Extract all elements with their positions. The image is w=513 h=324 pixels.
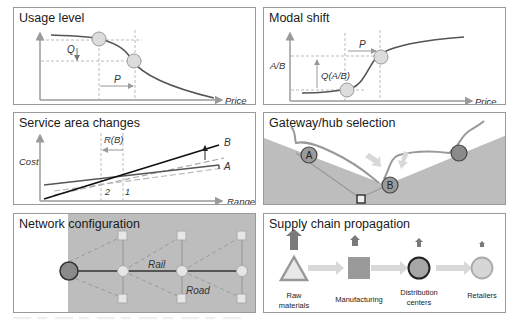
q-label: Q(A/B) — [321, 70, 350, 81]
stage-label: Manufacturing — [335, 295, 383, 304]
rail-node — [118, 266, 129, 277]
caption-remnant — [13, 316, 243, 320]
x-axis-label: Price — [475, 96, 497, 105]
point-before — [92, 32, 106, 46]
panel-modal-shift: Modal shift P A/B Q(A/B) Price — [263, 7, 506, 105]
raw-materials-triangle — [281, 257, 307, 280]
road-label: Road — [186, 285, 210, 296]
point-after — [127, 54, 141, 68]
panel-supply-chain: Supply chain propagation Raw materials M… — [263, 213, 506, 313]
up-arrow-icon — [479, 241, 485, 247]
node-c — [451, 145, 467, 161]
flow-arrow — [398, 151, 409, 169]
stage-label: materials — [279, 301, 310, 310]
stage-label: Retailers — [467, 291, 497, 300]
flow-arrow — [365, 153, 381, 167]
x-axis-label: Price — [225, 95, 247, 105]
up-arrow-icon — [286, 229, 302, 250]
point-before — [340, 83, 354, 97]
panel-title: Gateway/hub selection — [269, 116, 395, 130]
stage-label: Raw — [286, 291, 302, 300]
panel-title: Modal shift — [269, 11, 329, 25]
line-a-label: A — [223, 161, 231, 172]
hub-square — [357, 195, 365, 203]
panel-service-area: Service area changes R(B) B A Cost 2 1 R… — [13, 112, 256, 205]
q-label: Q — [67, 44, 75, 55]
line-b-label: B — [224, 137, 231, 148]
panel-title: Usage level — [19, 11, 84, 25]
distribution-circle — [409, 258, 430, 279]
r-label: R(B) — [104, 134, 124, 145]
shift-curve — [302, 37, 464, 93]
stage-label: Distribution — [400, 288, 438, 297]
road-node — [237, 231, 246, 240]
p-label: P — [114, 74, 121, 85]
tick-2: 2 — [104, 187, 110, 197]
line-a — [44, 165, 219, 185]
rail-label: Rail — [148, 259, 166, 270]
rail-node — [237, 266, 248, 277]
panel-usage-level: Usage level Q P Price — [13, 7, 256, 105]
x-axis-label: Range — [227, 196, 255, 205]
road-node — [237, 294, 246, 303]
stage-label: centers — [407, 298, 432, 307]
up-arrow-icon — [415, 238, 423, 247]
road-node — [177, 294, 186, 303]
up-arrow-icon — [350, 235, 360, 246]
node-a-label: A — [306, 150, 313, 161]
tick-1: 1 — [125, 187, 130, 197]
panel-gateway: A B Gateway/hub selection — [263, 112, 506, 205]
panel-network: Rail Road Network configuration — [13, 213, 256, 313]
land-area — [264, 135, 506, 205]
road-node — [118, 294, 127, 303]
road-node — [177, 231, 186, 240]
y-axis-label: A/B — [269, 60, 286, 71]
panel-title: Network configuration — [19, 217, 140, 231]
panel-title: Service area changes — [19, 116, 140, 130]
road-node — [118, 231, 127, 240]
manufacturing-square — [348, 257, 370, 279]
p-label: P — [359, 39, 366, 50]
retailers-circle — [472, 258, 493, 279]
panel-title: Supply chain propagation — [269, 217, 410, 231]
flow-arrows — [308, 261, 472, 275]
y-axis-label: Cost — [19, 156, 39, 167]
origin-node — [60, 262, 78, 280]
point-after — [374, 50, 388, 64]
node-b-label: B — [387, 180, 394, 191]
rail-node — [177, 266, 188, 277]
up-arrows — [286, 229, 485, 250]
